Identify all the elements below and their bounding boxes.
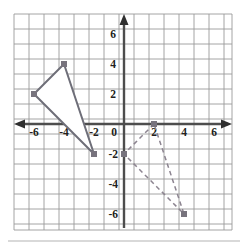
vertex-marker: [31, 91, 37, 97]
vertex-marker: [91, 151, 97, 157]
x-tick-label: 4: [181, 126, 187, 138]
y-tick-label: -4: [108, 178, 118, 190]
vertex-marker: [121, 151, 127, 157]
y-tick-label: -2: [108, 148, 118, 160]
x-tick-label: -6: [29, 126, 39, 138]
vertex-marker: [61, 61, 67, 67]
x-tick-label: 6: [211, 126, 217, 138]
coordinate-plane-figure: -6 -4 -2 0 2 4 6 6 4 2 -2 -4 -6: [0, 0, 248, 243]
y-tick-label: -6: [108, 208, 118, 220]
y-tick-label: 4: [110, 58, 116, 70]
vertex-marker: [181, 211, 187, 217]
vertex-marker: [151, 121, 157, 127]
y-tick-label: 2: [110, 88, 116, 100]
y-tick-label: 6: [110, 28, 116, 40]
x-tick-label: -2: [89, 126, 99, 138]
x-tick-label-origin: 0: [111, 126, 117, 138]
x-tick-label: 2: [151, 126, 157, 138]
bottom-divider: [8, 240, 240, 242]
coordinate-plane-svg: -6 -4 -2 0 2 4 6 6 4 2 -2 -4 -6: [0, 0, 248, 243]
